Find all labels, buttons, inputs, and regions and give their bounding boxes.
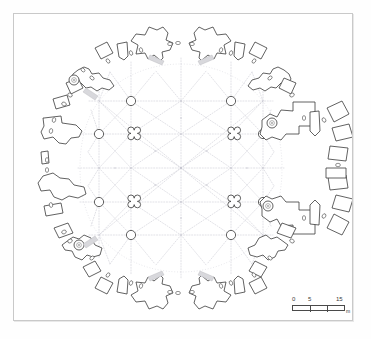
niche-chamber-group (38, 27, 353, 309)
scale-bar: 0 5 15 m (292, 296, 348, 318)
round-pier (126, 230, 135, 239)
small-loculus (168, 42, 173, 45)
loculus-slot (327, 214, 349, 235)
loculus-slot (249, 277, 267, 294)
loculus-slot (83, 261, 101, 277)
small-loculus (229, 280, 234, 286)
loculus-slot (234, 276, 245, 294)
small-loculus (129, 50, 134, 56)
scale-bar-labels: 0 5 15 (292, 296, 348, 305)
loculus-slot (117, 276, 128, 294)
scale-bar-track (292, 305, 345, 311)
loculus-slot (95, 42, 113, 59)
round-pier (94, 129, 103, 138)
small-loculus (45, 158, 48, 163)
small-loculus (321, 213, 326, 219)
round-pier (94, 197, 103, 206)
plan-drawing (0, 0, 371, 339)
small-loculus (176, 41, 181, 44)
loculus-slot (310, 200, 320, 225)
survey-marker (74, 240, 84, 250)
scale-bar-unit: m (346, 308, 350, 314)
small-loculus (321, 117, 326, 123)
loculus-slot (326, 168, 346, 178)
small-loculus (229, 50, 234, 56)
niche-chamber (38, 173, 86, 200)
loculus-slot (53, 95, 70, 109)
round-pier (226, 230, 235, 239)
scale-bar-tick (327, 306, 328, 312)
small-loculus (302, 216, 305, 221)
quatrefoil-pier (228, 195, 241, 208)
quatrefoil-pier (228, 127, 241, 140)
round-pier (126, 96, 135, 105)
loculus-slot (95, 277, 113, 294)
loculus-slot (234, 42, 245, 60)
small-loculus (105, 272, 110, 278)
small-loculus (105, 58, 110, 64)
small-loculus (289, 238, 295, 244)
loculus-slot (44, 203, 63, 216)
small-loculus (45, 168, 48, 173)
survey-marker (69, 75, 79, 85)
quatrefoil-pier (128, 127, 141, 140)
small-loculus (129, 280, 134, 286)
loculus-slot (249, 42, 267, 59)
small-loculus (336, 163, 341, 166)
small-loculus (251, 58, 256, 64)
survey-marker (263, 201, 273, 211)
loculus-slot (332, 195, 353, 212)
small-loculus (190, 42, 195, 45)
small-loculus (190, 290, 195, 293)
loculus-slot (332, 124, 353, 141)
round-pier (226, 96, 235, 105)
scale-tick-15: 15 (336, 296, 343, 303)
loculus-slot (310, 111, 320, 136)
loculus-slot (328, 146, 348, 161)
archaeological-plan-figure: 0 5 15 m (0, 0, 371, 339)
loculus-slot (117, 42, 128, 60)
scale-bar-tick (310, 306, 311, 312)
quatrefoil-pier (128, 195, 141, 208)
niche-chamber (41, 116, 82, 144)
survey-marker (267, 118, 277, 128)
loculus-slot (327, 101, 349, 122)
scale-tick-0: 0 (292, 296, 295, 303)
scale-tick-5: 5 (308, 296, 311, 303)
small-loculus (176, 291, 181, 294)
small-loculus (168, 290, 173, 293)
small-loculus (302, 116, 305, 121)
